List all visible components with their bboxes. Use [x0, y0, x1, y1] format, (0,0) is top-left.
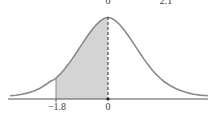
normal-distribution-figure: −1.8 0 0 2.1	[0, 0, 211, 124]
shaded-region	[56, 17, 108, 99]
top-label-right: 2.1	[160, 0, 173, 6]
top-label-center: 0	[106, 0, 111, 6]
tick-label-center: 0	[106, 101, 111, 112]
bell-curve	[10, 17, 208, 96]
tick-label-left: −1.8	[48, 101, 66, 112]
